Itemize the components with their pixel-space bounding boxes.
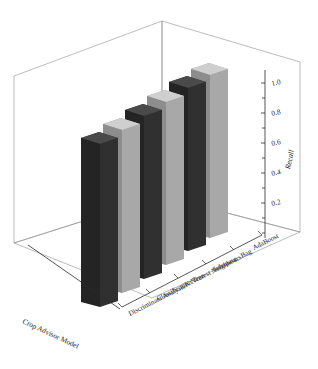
- category-label-bag: Bag: [239, 247, 253, 259]
- y-tick-0.2: 0.2: [270, 197, 281, 208]
- bar-discriminant-analysis: [81, 132, 118, 307]
- y-tick-0.4: 0.4: [270, 167, 281, 178]
- chart-canvas: 1.0 0.8 0.6 0.4 0.2 Recall Discriminant …: [0, 0, 318, 369]
- category-label-adaboost: AdaBoost: [251, 232, 280, 252]
- y-tick-1.0: 1.0: [270, 77, 281, 88]
- model-axis-title: Crop Advisor Model: [21, 317, 80, 351]
- recall-axis-title: Recall: [283, 149, 296, 171]
- chart-figure: 1.0 0.8 0.6 0.4 0.2 Recall Discriminant …: [0, 0, 318, 369]
- y-tick-0.8: 0.8: [270, 107, 281, 118]
- y-tick-0.6: 0.6: [270, 137, 281, 148]
- recall-axis: [261, 70, 265, 238]
